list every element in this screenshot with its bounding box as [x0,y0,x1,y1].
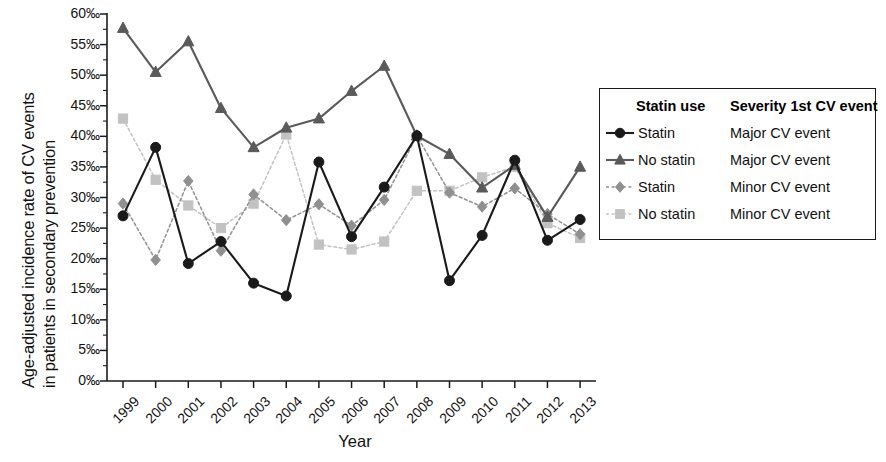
legend-header: Statin use Severity 1st CV event [600,98,875,120]
legend-statin-use: No statin [638,152,695,168]
legend-statin-use: No statin [638,206,695,222]
chart-figure: Age-adjusted incidence rate of CV events… [0,0,886,462]
legend-item[interactable]: StatinMajor CV event [600,123,875,149]
legend-item[interactable]: No statinMinor CV event [600,204,875,230]
data-point-circle [347,232,357,242]
data-point-diamond [477,201,487,212]
data-point-square [184,201,193,210]
data-point-diamond [184,175,194,186]
data-point-square [478,173,487,182]
legend-item[interactable]: StatinMinor CV event [600,177,875,203]
data-point-diamond [281,215,291,226]
legend-swatch-square-icon [605,204,635,224]
data-point-square [380,237,389,246]
data-point-square [314,240,323,249]
data-point-square [347,245,356,254]
legend-item[interactable]: No statinMajor CV event [600,150,875,176]
data-point-circle [314,157,324,167]
data-point-triangle [346,85,357,95]
data-point-square [616,210,625,219]
data-point-circle [510,155,520,165]
legend-swatch-triangle-icon [605,150,635,170]
legend-statin-use: Statin [638,179,675,195]
data-point-diamond [379,194,389,205]
data-point-circle [151,142,161,152]
data-point-circle [379,182,389,192]
legend-statin-use: Statin [638,125,675,141]
data-point-triangle [379,60,390,70]
data-point-circle [216,237,226,247]
data-point-square [412,186,421,195]
data-point-triangle [575,161,586,171]
data-point-circle [542,235,552,245]
data-point-square [118,114,127,123]
legend-severity: Minor CV event [730,179,830,195]
data-point-triangle [444,148,455,158]
legend-severity: Major CV event [730,152,830,168]
data-point-square [216,223,225,232]
data-point-circle [118,211,128,221]
data-point-triangle [215,102,226,112]
data-point-triangle [183,36,194,46]
data-point-diamond [615,182,624,193]
data-point-diamond [314,199,324,210]
data-point-diamond [151,254,161,265]
data-point-triangle [117,22,128,32]
legend-header-statin-use: Statin use [636,98,705,114]
data-point-circle [412,131,422,141]
data-point-circle [575,215,585,225]
data-point-circle [445,276,455,286]
data-point-diamond [249,189,259,200]
data-point-circle [477,230,487,240]
legend-severity: Minor CV event [730,206,830,222]
series-group [118,131,585,301]
legend-severity: Major CV event [730,125,830,141]
legend-swatch-diamond-icon [605,177,635,197]
data-point-square [151,175,160,184]
legend-swatch-circle-icon [605,123,635,143]
data-point-circle [615,128,625,138]
chart-legend: Statin use Severity 1st CV event StatinM… [599,88,876,240]
legend-header-severity: Severity 1st CV event [730,98,878,114]
data-point-circle [249,278,259,288]
data-point-circle [183,259,193,269]
data-point-diamond [510,183,520,194]
data-point-circle [281,291,291,301]
